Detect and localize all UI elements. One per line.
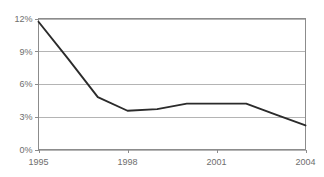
y-axis-ticks	[35, 20, 39, 151]
y-axis-labels: 12%9%6%3%0%	[14, 14, 32, 155]
data-series-line	[39, 22, 306, 126]
line-chart: 12%9%6%3%0% 1995199820012004	[0, 0, 324, 177]
y-axis-tick-label: 9%	[19, 47, 32, 57]
x-axis-tick-label: 1995	[28, 157, 48, 167]
x-axis-labels: 1995199820012004	[28, 157, 315, 167]
x-axis-tick-label: 2001	[206, 157, 226, 167]
y-axis-tick-label: 12%	[14, 14, 32, 24]
y-axis-tick-label: 3%	[19, 112, 32, 122]
y-axis-tick-label: 0%	[19, 145, 32, 155]
x-axis-tick-label: 2004	[295, 157, 315, 167]
y-axis-tick-label: 6%	[19, 79, 32, 89]
chart-canvas: 12%9%6%3%0% 1995199820012004	[0, 0, 324, 177]
data-series-group	[39, 22, 306, 126]
gridlines	[39, 20, 306, 151]
x-axis-tick-label: 1998	[117, 157, 137, 167]
